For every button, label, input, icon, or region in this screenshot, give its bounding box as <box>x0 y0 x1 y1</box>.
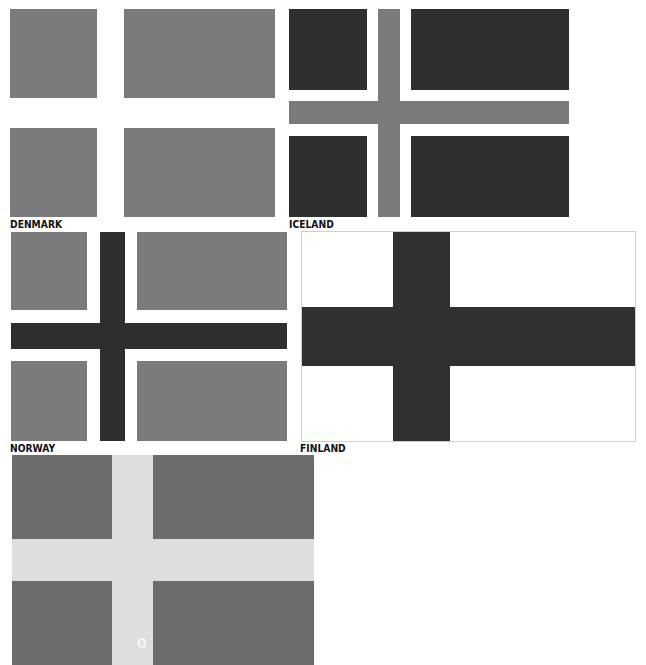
norway-panel-bottom-left <box>11 361 87 441</box>
norway-panel-bottom-right <box>137 361 287 441</box>
iceland-panel-top-right <box>411 9 569 90</box>
iceland-panel-bottom-right <box>411 136 569 217</box>
label-iceland: ICELAND <box>289 219 334 230</box>
iceland-panel-bottom-left <box>289 136 367 217</box>
bottom-panel-bottom-left <box>12 581 112 665</box>
label-norway: NORWAY <box>10 443 55 454</box>
bottom-panel-top-right <box>153 455 314 539</box>
label-finland: FINLAND <box>300 443 346 454</box>
norway-panel-top-right <box>137 232 287 310</box>
denmark-panel-bottom-left <box>10 128 97 217</box>
flag-iceland <box>289 9 569 217</box>
flag-norway <box>11 232 287 441</box>
bottom-panel-top-left <box>12 455 112 539</box>
flag-bottom: 0 <box>12 455 314 665</box>
denmark-panel-bottom-right <box>124 128 275 217</box>
iceland-panel-top-left <box>289 9 367 90</box>
label-denmark: DENMARK <box>10 219 62 230</box>
bottom-panel-bottom-right <box>153 581 314 665</box>
scan-mark: 0 <box>137 635 147 651</box>
flag-denmark <box>0 0 285 230</box>
flag-finland <box>301 231 636 442</box>
norway-cross-horizontal <box>11 323 287 349</box>
denmark-panel-top-right <box>124 9 275 98</box>
norway-panel-top-left <box>11 232 87 310</box>
iceland-cross-horizontal <box>289 101 569 124</box>
denmark-panel-top-left <box>10 9 97 98</box>
finland-cross-horizontal <box>302 307 635 366</box>
